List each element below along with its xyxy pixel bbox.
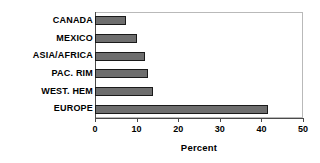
bar	[95, 105, 268, 114]
x-tick-mark	[261, 118, 262, 122]
bar	[95, 52, 145, 61]
category-label: PAC. RIM	[0, 69, 93, 78]
category-label: EUROPE	[0, 104, 93, 113]
x-tick-label: 40	[246, 124, 276, 134]
x-tick-mark	[137, 118, 138, 122]
bars-layer	[95, 12, 303, 118]
x-tick-label: 20	[163, 124, 193, 134]
x-tick-mark	[303, 118, 304, 122]
x-axis-title: Percent	[95, 142, 303, 153]
x-axis-line	[95, 118, 303, 119]
x-tick-mark	[220, 118, 221, 122]
bar-chart: CANADAMEXICOASIA/AFRICAPAC. RIMWEST. HEM…	[0, 0, 320, 163]
category-axis-labels: CANADAMEXICOASIA/AFRICAPAC. RIMWEST. HEM…	[0, 12, 93, 118]
bar	[95, 34, 137, 43]
bar	[95, 69, 148, 78]
category-label: CANADA	[0, 16, 93, 25]
bar	[95, 87, 153, 96]
x-tick-label: 50	[288, 124, 318, 134]
x-tick-label: 30	[205, 124, 235, 134]
x-tick-label: 0	[80, 124, 110, 134]
x-tick-mark	[178, 118, 179, 122]
category-label: MEXICO	[0, 34, 93, 43]
x-tick-label: 10	[122, 124, 152, 134]
bar	[95, 16, 126, 25]
category-label: ASIA/AFRICA	[0, 51, 93, 60]
category-label: WEST. HEM	[0, 87, 93, 96]
x-tick-mark	[95, 118, 96, 122]
